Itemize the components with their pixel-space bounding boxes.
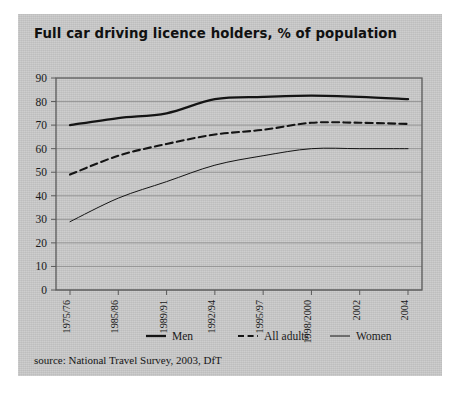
x-tick-label: 1989/91 [158,300,169,333]
y-axis-tick-labels: 0102030405060708090 [36,72,48,296]
y-tick-label: 70 [36,119,48,131]
y-tick-label: 80 [36,96,48,108]
x-tick-label: 1975/76 [61,300,72,333]
y-tick-label: 60 [36,143,48,155]
y-tick-label: 50 [36,166,48,178]
y-tick-label: 90 [36,72,48,84]
line-chart: 0102030405060708090 1975/761985/861989/9… [18,14,442,376]
gridlines [56,102,422,290]
source-note: source: National Travel Survey, 2003, Df… [34,354,222,366]
y-axis-tick-marks [51,78,56,290]
legend-label-women: Women [356,330,392,342]
y-tick-label: 10 [36,260,48,272]
data-series-layer [70,96,408,222]
y-tick-label: 30 [36,213,48,225]
y-tick-label: 0 [41,284,47,296]
legend-label-men: Men [172,330,193,342]
legend-label-all-adults: All adults [264,330,310,342]
x-tick-label: 1992/94 [206,300,217,333]
x-tick-label: 1995/97 [254,300,265,333]
y-tick-label: 40 [36,190,48,202]
plot-frame [56,78,422,290]
x-axis-tick-marks [70,290,408,295]
figure-panel: Full car driving licence holders, % of p… [18,14,442,376]
plot-area: 0102030405060708090 1975/761985/861989/9… [18,14,442,376]
y-tick-label: 20 [36,237,48,249]
series-line-men [70,96,408,125]
chart-legend: MenAll adultsWomen [146,330,392,342]
x-tick-label: 2002 [351,300,362,320]
series-line-women [70,148,408,222]
x-tick-label: 2004 [399,300,410,320]
x-tick-label: 1985/86 [109,300,120,333]
